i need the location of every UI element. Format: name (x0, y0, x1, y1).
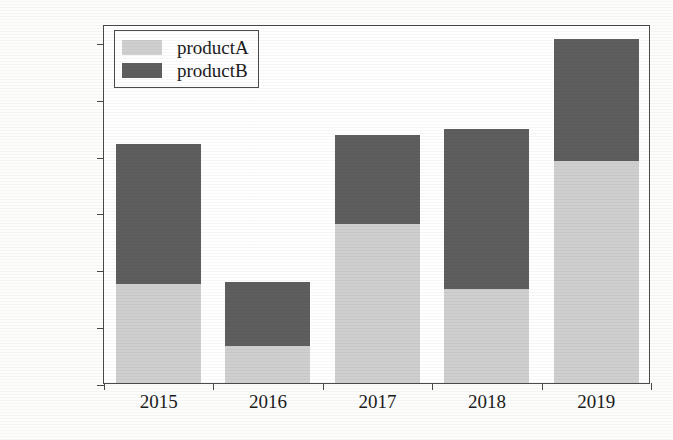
legend-label-productB: productB (177, 61, 248, 80)
bar-group-2017 (335, 135, 420, 383)
chart-figure: 600000 500000 400000 300000 200000 10000… (0, 0, 673, 440)
bar-segment-productB[interactable] (116, 144, 201, 283)
legend-item-productB[interactable]: productB (122, 59, 249, 82)
y-axis-tick (97, 101, 104, 102)
bar-segment-productB[interactable] (444, 129, 529, 289)
bar-segment-productB[interactable] (335, 135, 420, 224)
y-axis-tick (97, 44, 104, 45)
bar-segment-productA[interactable] (554, 161, 639, 383)
bar-group-2015 (116, 144, 201, 383)
x-axis-tick (213, 383, 214, 390)
y-axis-tick (97, 328, 104, 329)
x-axis-tick (104, 383, 105, 390)
x-axis-tick-label: 2016 (249, 392, 287, 411)
bar-segment-productB[interactable] (225, 282, 310, 346)
chart-legend: productA productB (114, 30, 259, 88)
bar-segment-productA[interactable] (225, 346, 310, 383)
bar-group-2019 (554, 39, 639, 383)
x-axis-tick-label: 2018 (468, 392, 506, 411)
y-axis-tick (97, 214, 104, 215)
y-axis-tick (97, 158, 104, 159)
x-axis-tick-label: 2017 (359, 392, 397, 411)
legend-item-productA[interactable]: productA (122, 36, 249, 59)
bar-segment-productA[interactable] (116, 284, 201, 384)
legend-swatch-productA-icon (122, 40, 162, 55)
x-axis-tick-label: 2019 (577, 392, 615, 411)
bar-segment-productB[interactable] (554, 39, 639, 161)
legend-label-productA: productA (177, 38, 249, 57)
bar-segment-productA[interactable] (444, 289, 529, 383)
x-axis-tick (542, 383, 543, 390)
bar-group-2018 (444, 129, 529, 383)
x-axis-tick-label: 2015 (140, 392, 178, 411)
x-axis-tick (323, 383, 324, 390)
x-axis-tick (432, 383, 433, 390)
bar-group-2016 (225, 282, 310, 383)
y-axis-tick (97, 271, 104, 272)
legend-swatch-productB-icon (122, 63, 162, 78)
x-axis-tick (651, 383, 652, 390)
bar-segment-productA[interactable] (335, 224, 420, 383)
y-axis-tick (97, 385, 104, 386)
